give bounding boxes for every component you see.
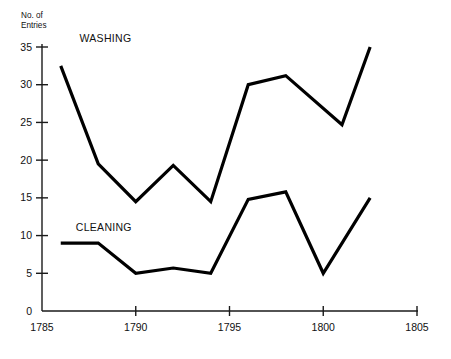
x-tick-label: 1790 bbox=[124, 321, 148, 333]
y-tick-label: 35 bbox=[20, 41, 32, 53]
y-axis-title-line: Entries bbox=[21, 21, 46, 30]
x-axis-group: 17851790179518001805 bbox=[30, 306, 429, 333]
x-tick-label: 1800 bbox=[312, 321, 336, 333]
y-tick-label: 25 bbox=[20, 116, 32, 128]
series-label-cleaning: CLEANING bbox=[76, 221, 132, 233]
series-lines bbox=[61, 47, 370, 273]
series-label-washing: WASHING bbox=[80, 32, 132, 44]
chart-svg: 05101520253035 17851790179518001805 No. … bbox=[0, 0, 451, 359]
x-tick-group: 17851790179518001805 bbox=[30, 306, 429, 333]
y-tick-group: 05101520253035 bbox=[20, 41, 48, 317]
y-tick-label: 20 bbox=[20, 154, 32, 166]
y-tick-label: 10 bbox=[20, 229, 32, 241]
y-tick-label: 5 bbox=[26, 267, 32, 279]
x-tick-label: 1805 bbox=[405, 321, 429, 333]
line-chart: 05101520253035 17851790179518001805 No. … bbox=[0, 0, 451, 359]
y-tick-label: 15 bbox=[20, 191, 32, 203]
x-tick-label: 1795 bbox=[218, 321, 242, 333]
series-inline-labels: WASHINGCLEANING bbox=[76, 32, 132, 233]
y-axis-title-line: No. of bbox=[21, 11, 44, 20]
y-tick-label: 0 bbox=[26, 305, 32, 317]
y-axis-group: 05101520253035 bbox=[20, 41, 48, 317]
x-tick-label: 1785 bbox=[30, 321, 54, 333]
y-axis-title: No. ofEntries bbox=[21, 11, 46, 30]
y-tick-label: 30 bbox=[20, 78, 32, 90]
series-line-washing bbox=[61, 47, 370, 202]
